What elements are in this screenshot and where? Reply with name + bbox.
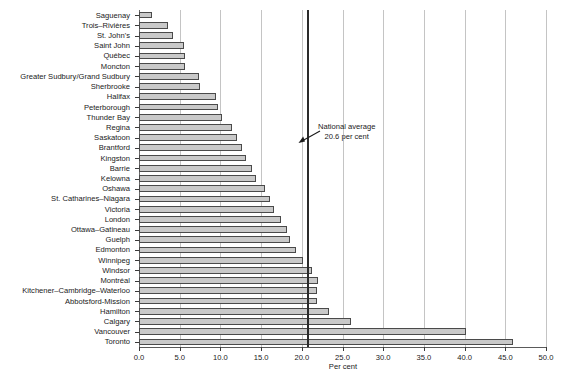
bar-row [139, 93, 546, 100]
bar-montr-al [139, 277, 318, 284]
bar-row [139, 216, 546, 223]
bar-row [139, 12, 546, 19]
x-tick-label: 35.0 [417, 353, 432, 362]
annotation-arrow-icon [297, 129, 321, 145]
bar-row [139, 32, 546, 39]
x-tick-label: 30.0 [376, 353, 391, 362]
bar-row [139, 236, 546, 243]
bar-oshawa [139, 185, 265, 192]
category-label: Peterborough [84, 103, 130, 112]
bar-row [139, 298, 546, 305]
bar-row [139, 277, 546, 284]
bar-kingston [139, 155, 246, 162]
bar-saskatoon [139, 134, 237, 141]
category-label: Thunder Bay [87, 113, 130, 122]
bar-row [139, 104, 546, 111]
bar-row [139, 206, 546, 213]
category-label: Kitchener–Cambridge–Waterloo [22, 286, 130, 295]
category-label: Saskatoon [94, 133, 130, 142]
x-tick-mark [139, 347, 140, 351]
bar-london [139, 216, 281, 223]
bar-row [139, 175, 546, 182]
bar-ottawa-gatineau [139, 226, 287, 233]
x-axis-title: Per cent [139, 362, 547, 371]
category-label: Winnipeg [98, 256, 130, 265]
category-label: Kingston [100, 154, 130, 163]
category-label: Kelowna [101, 174, 130, 183]
bar-row [139, 318, 546, 325]
reference-annotation: National average 20.6 per cent [318, 122, 375, 142]
x-tick-mark [465, 347, 466, 351]
category-label: Ottawa–Gatineau [71, 225, 130, 234]
category-label: Moncton [101, 62, 130, 71]
category-label: Barrie [110, 164, 130, 173]
reference-annotation-line2: 20.6 per cent [318, 132, 375, 142]
bar-regina [139, 124, 232, 131]
bar-row [139, 42, 546, 49]
bar-st-john-s [139, 32, 173, 39]
bar-row [139, 144, 546, 151]
bar-row [139, 53, 546, 60]
bar-row [139, 328, 546, 335]
x-tick-mark [383, 347, 384, 351]
x-tick-mark [261, 347, 262, 351]
category-label: Windsor [102, 266, 130, 275]
x-tick-label: 25.0 [335, 353, 350, 362]
bar-winnipeg [139, 257, 303, 264]
bar-row [139, 185, 546, 192]
bar-windsor [139, 267, 312, 274]
bar-halifax [139, 93, 216, 100]
x-tick-label: 0.0 [134, 353, 145, 362]
bar-qu-bec [139, 53, 185, 60]
x-tick-mark [180, 347, 181, 351]
category-label: Québec [103, 51, 130, 60]
bar-toronto [139, 339, 513, 346]
bar-series [139, 10, 546, 347]
x-tick-mark [505, 347, 506, 351]
bar-guelph [139, 236, 290, 243]
bar-peterborough [139, 104, 218, 111]
national-average-line [307, 10, 309, 347]
category-label: St. Catharines–Niagara [51, 194, 130, 203]
x-tick-label: 50.0 [539, 353, 554, 362]
category-label: Saguenay [96, 11, 130, 20]
bar-abbotsford-mission [139, 298, 317, 305]
bar-row [139, 247, 546, 254]
category-label: Edmonton [95, 245, 130, 254]
bar-brantford [139, 144, 242, 151]
bar-row [139, 73, 546, 80]
category-label: Montréal [100, 276, 130, 285]
bar-row [139, 267, 546, 274]
bar-thunder-bay [139, 114, 222, 121]
bar-kitchener-cambridge-waterloo [139, 287, 317, 294]
category-label: Calgary [104, 317, 130, 326]
reference-annotation-line1: National average [318, 122, 375, 132]
category-label: Halifax [107, 92, 130, 101]
bar-row [139, 196, 546, 203]
x-tick-label: 20.0 [294, 353, 309, 362]
bar-calgary [139, 318, 351, 325]
x-tick-mark [343, 347, 344, 351]
category-label: Saint John [94, 41, 130, 50]
bar-row [139, 155, 546, 162]
bar-saint-john [139, 42, 184, 49]
x-tick-label: 15.0 [254, 353, 269, 362]
category-label: Guelph [106, 235, 131, 244]
x-tick-mark [546, 347, 547, 351]
bar-row [139, 339, 546, 346]
category-label: St. John's [97, 31, 130, 40]
category-label: Regina [106, 123, 130, 132]
bar-vancouver [139, 328, 466, 335]
category-label: London [105, 215, 130, 224]
bar-row [139, 287, 546, 294]
category-label: Trois–Rivières [82, 21, 130, 30]
bar-row [139, 114, 546, 121]
bar-row [139, 257, 546, 264]
bar-row [139, 83, 546, 90]
x-tick-label: 5.0 [174, 353, 185, 362]
bar-row [139, 308, 546, 315]
x-tick-mark [302, 347, 303, 351]
bar-hamilton [139, 308, 329, 315]
category-label: Abbotsford-Mission [65, 297, 130, 306]
bar-row [139, 22, 546, 29]
